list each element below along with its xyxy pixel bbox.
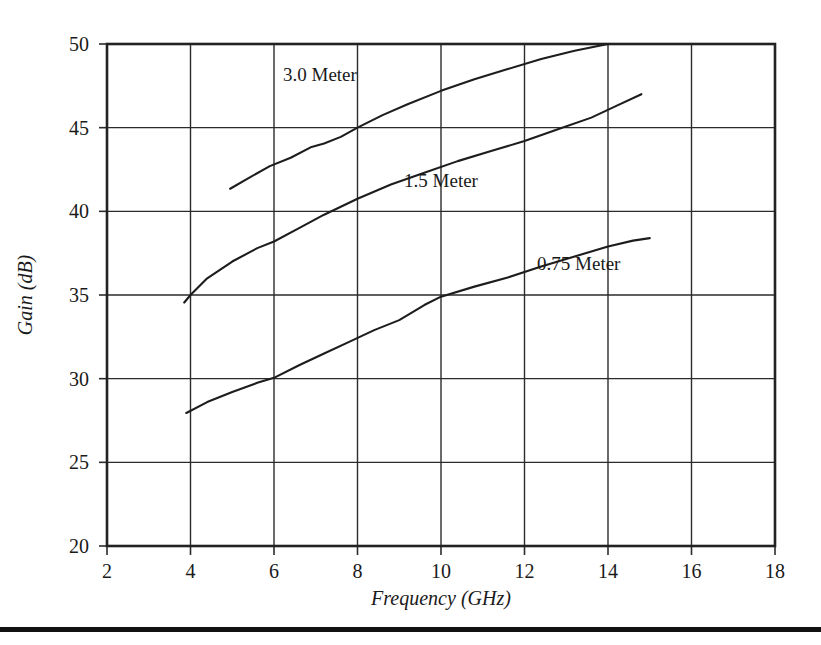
x-tick-label: 12 — [515, 560, 535, 582]
y-tick-label: 20 — [69, 535, 89, 557]
series-annotations: 3.0 Meter1.5 Meter0.75 Meter — [283, 64, 621, 274]
x-tick-label: 18 — [765, 560, 785, 582]
y-tick-label: 45 — [69, 117, 89, 139]
series-label-1: 1.5 Meter — [404, 170, 479, 191]
grid-lines — [107, 44, 775, 546]
y-tick-label: 40 — [69, 200, 89, 222]
y-tick-label: 30 — [69, 368, 89, 390]
x-tick-label: 2 — [102, 560, 112, 582]
figure-container: 24681012141618 20253035404550 3.0 Meter1… — [0, 0, 821, 645]
y-axis-title: Gain (dB) — [14, 254, 37, 335]
y-tick-label: 25 — [69, 451, 89, 473]
x-tick-label: 10 — [431, 560, 451, 582]
data-curves — [184, 44, 650, 413]
y-tick-label: 35 — [69, 284, 89, 306]
x-tick-label: 14 — [598, 560, 618, 582]
y-tick-label: 50 — [69, 33, 89, 55]
series-label-0: 3.0 Meter — [283, 64, 358, 85]
x-axis-title: Frequency (GHz) — [370, 587, 511, 610]
y-axis-tick-labels: 20253035404550 — [69, 33, 89, 557]
x-tick-label: 4 — [186, 560, 196, 582]
footer-divider — [0, 627, 821, 632]
gain-vs-frequency-chart: 24681012141618 20253035404550 3.0 Meter1… — [0, 0, 821, 645]
x-tick-label: 6 — [269, 560, 279, 582]
series-label-2: 0.75 Meter — [537, 253, 621, 274]
x-tick-label: 16 — [682, 560, 702, 582]
x-tick-label: 8 — [353, 560, 363, 582]
x-axis-tick-labels: 24681012141618 — [102, 560, 785, 582]
